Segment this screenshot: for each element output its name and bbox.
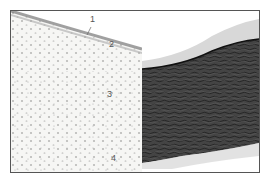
- left-panel-light-stain: 1 2 3 4: [11, 11, 142, 172]
- left-tissue-illustration: [11, 11, 142, 172]
- label-1: 1: [90, 15, 95, 24]
- right-tissue-illustration: [142, 11, 259, 172]
- label-2: 2: [109, 40, 114, 49]
- label-4: 4: [111, 154, 116, 163]
- right-panel-dark-stain: [142, 11, 259, 172]
- figure-frame: 1 2 3 4: [10, 10, 260, 173]
- label-3: 3: [107, 90, 112, 99]
